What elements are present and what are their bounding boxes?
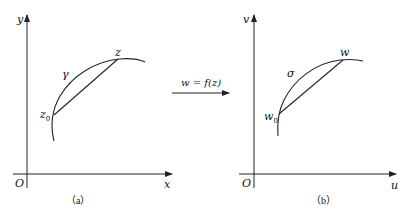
panel-b-w-label: w bbox=[340, 47, 349, 58]
panel-b-axes bbox=[239, 15, 396, 188]
diagram-graphics bbox=[0, 0, 405, 216]
mapping-label: w = f(z) bbox=[181, 78, 221, 88]
panel-a-z0-label: z0 bbox=[40, 109, 50, 123]
panel-b-caption: （b） bbox=[311, 196, 336, 206]
conformal-mapping-diagram: y O x γ z z0 （a） w = f(z) v O u σ w w0 （… bbox=[0, 0, 405, 216]
panel-b-u-label: u bbox=[391, 180, 398, 191]
panel-b-w0-label: w0 bbox=[264, 111, 278, 125]
panel-a-z-label: z bbox=[115, 47, 121, 58]
panel-a-x-label: x bbox=[164, 179, 170, 190]
panel-b-origin-label: O bbox=[242, 178, 251, 189]
panel-a-gamma-label: γ bbox=[62, 69, 69, 80]
panel-b-sigma-label: σ bbox=[287, 68, 295, 79]
panel-a-axes bbox=[13, 15, 172, 188]
panel-a-y-label: y bbox=[17, 14, 23, 25]
panel-a-caption: （a） bbox=[66, 196, 90, 206]
panel-b-v-label: v bbox=[243, 14, 249, 25]
panel-a-origin-label: O bbox=[15, 178, 24, 189]
